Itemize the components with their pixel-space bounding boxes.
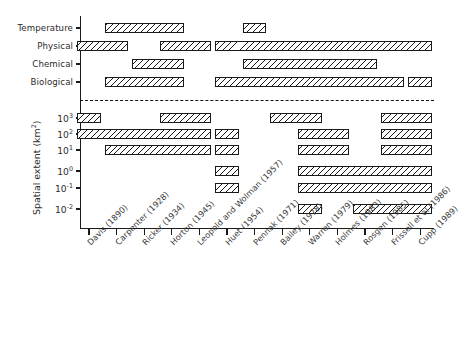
row-label-chemical: Chemical — [32, 59, 73, 69]
bar-physical-3 — [160, 41, 211, 52]
ytick-label-3: 100 — [57, 165, 73, 177]
bar-physical-4 — [215, 41, 432, 52]
row-label-temperature: Temperature — [17, 23, 73, 33]
bar-extent-r0-0 — [77, 113, 101, 124]
bar-biological-9 — [408, 77, 432, 88]
bar-extent-r1-6 — [298, 129, 349, 140]
bar-extent-r4-17 — [298, 183, 432, 194]
bar-chemical-5 — [132, 59, 183, 70]
bar-extent-r3-13 — [215, 166, 239, 177]
bar-temperature-1 — [243, 23, 267, 34]
bar-extent-r2-8 — [105, 145, 211, 156]
bar-extent-r0-2 — [270, 113, 321, 124]
bar-extent-r0-3 — [381, 113, 432, 124]
row-tick-biological — [76, 81, 81, 82]
bar-extent-r4-16 — [215, 183, 239, 194]
bar-biological-8 — [215, 77, 404, 88]
panel-divider — [80, 100, 434, 101]
bar-extent-r0-1 — [160, 113, 211, 124]
row-label-physical: Physical — [37, 41, 73, 51]
row-tick-temperature — [76, 27, 81, 28]
ytick-5 — [76, 208, 81, 209]
ytick-3 — [76, 170, 81, 171]
bar-physical-2 — [77, 41, 128, 52]
bar-extent-r1-7 — [381, 129, 432, 140]
ytick-label-0: 103 — [57, 112, 73, 124]
ytick-label-1: 102 — [57, 128, 73, 140]
bar-extent-r2-10 — [298, 145, 349, 156]
bar-chemical-6 — [243, 59, 377, 70]
ytick-label-4: 10-1 — [55, 182, 73, 194]
ytick-label-2: 101 — [57, 144, 73, 156]
row-label-biological: Biological — [31, 77, 73, 87]
y-axis-title: Spatial extent (km2) — [30, 121, 42, 215]
row-tick-chemical — [76, 63, 81, 64]
bar-extent-r1-4 — [77, 129, 211, 140]
bar-extent-r2-9 — [215, 145, 239, 156]
bar-biological-7 — [105, 77, 184, 88]
bar-temperature-0 — [105, 23, 184, 34]
bar-extent-r3-14 — [298, 166, 432, 177]
ytick-2 — [76, 149, 81, 150]
bar-extent-r1-5 — [215, 129, 239, 140]
bar-extent-r2-11 — [381, 145, 432, 156]
ytick-label-5: 10-2 — [55, 203, 73, 215]
ytick-4 — [76, 187, 81, 188]
